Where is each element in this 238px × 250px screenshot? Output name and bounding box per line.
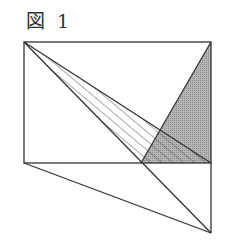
geometry-diagram <box>0 0 238 250</box>
line-d-g <box>24 163 211 233</box>
